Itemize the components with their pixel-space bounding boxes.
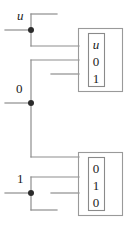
junction-dot-one bbox=[28, 190, 34, 196]
junction-dot-zero bbox=[28, 100, 34, 106]
lower-block-cell-0: 0 bbox=[88, 162, 104, 175]
signal-label-u: u bbox=[17, 9, 24, 22]
lower-block-cell-2: 0 bbox=[88, 196, 104, 209]
upper-block-cell-2: 1 bbox=[88, 72, 104, 85]
signal-label-one: 1 bbox=[17, 172, 24, 185]
diagram-canvas bbox=[0, 0, 132, 225]
signal-label-zero: 0 bbox=[16, 82, 23, 95]
junction-dot-u bbox=[28, 27, 34, 33]
upper-block-cell-0: u bbox=[88, 38, 104, 51]
upper-block-cell-1: 0 bbox=[88, 55, 104, 68]
lower-block-cell-1: 1 bbox=[88, 179, 104, 192]
circuit-diagram: u 0 1 u 0 1 0 1 0 bbox=[0, 0, 132, 225]
